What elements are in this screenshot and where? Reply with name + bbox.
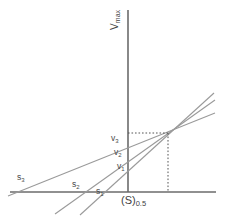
direct-linear-plot-figure: Vmax (S)0.5 s3 s2 s1 v3 v2 v1 — [0, 0, 226, 222]
label-v2-subscript: 2 — [118, 152, 121, 158]
label-s2: s2 — [72, 180, 80, 190]
label-s3-subscript: 3 — [21, 177, 24, 183]
label-v3-subscript: 3 — [115, 138, 118, 144]
label-s2-subscript: 2 — [76, 184, 79, 190]
label-s1: s1 — [96, 187, 104, 197]
label-v2: v2 — [114, 148, 122, 158]
x-axis-label: (S)0.5 — [121, 195, 146, 208]
label-v3: v3 — [111, 134, 119, 144]
kinetic-line-3 — [8, 113, 215, 196]
label-s3: s3 — [17, 173, 25, 183]
label-v1-subscript: 1 — [121, 166, 124, 172]
label-s1-subscript: 1 — [100, 191, 103, 197]
y-axis-label-subscript: max — [114, 10, 121, 23]
label-v1: v1 — [117, 162, 125, 172]
y-axis-label-text: V — [109, 23, 120, 30]
x-axis-label-subscript: 0.5 — [136, 199, 146, 208]
x-axis-label-text: (S) — [121, 194, 136, 206]
plot-canvas — [0, 0, 226, 222]
y-axis-label: Vmax — [110, 10, 121, 30]
kinetic-line-1 — [80, 93, 214, 215]
